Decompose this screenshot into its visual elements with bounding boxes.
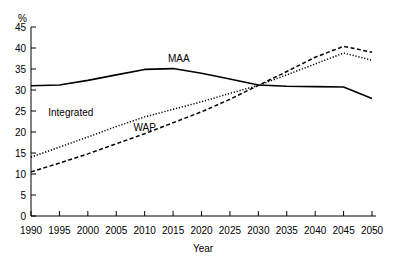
y-tick-label: 35: [15, 64, 27, 75]
y-tick-label: 0: [20, 211, 26, 222]
chart-figure: 051015202530354045 199019952000200520102…: [0, 0, 394, 263]
line-chart-plot: 051015202530354045 199019952000200520102…: [0, 0, 394, 263]
x-tick-label: 2025: [219, 225, 242, 236]
x-tick-label: 2010: [134, 225, 157, 236]
x-tick-label: 1995: [48, 225, 71, 236]
x-tick-label: 2000: [77, 225, 100, 236]
y-axis-unit-label: %: [18, 13, 27, 24]
chart-background: [0, 0, 394, 263]
y-tick-label: 10: [15, 169, 27, 180]
x-tick-label: 2005: [105, 225, 128, 236]
x-tick-label: 2045: [332, 225, 355, 236]
y-tick-label: 5: [20, 190, 26, 201]
x-tick-label: 2050: [361, 225, 384, 236]
x-tick-label: 1990: [20, 225, 43, 236]
y-tick-label: 30: [15, 85, 27, 96]
x-tick-label: 2035: [276, 225, 299, 236]
series-label-maa: MAA: [168, 53, 190, 64]
x-tick-label: 2030: [247, 225, 270, 236]
x-axis-title: Year: [193, 243, 214, 254]
series-label-integrated: Integrated: [48, 107, 93, 118]
y-tick-label: 15: [15, 148, 27, 159]
y-tick-label: 25: [15, 106, 27, 117]
y-tick-label: 40: [15, 43, 27, 54]
y-tick-label: 20: [15, 127, 27, 138]
x-tick-label: 2020: [190, 225, 213, 236]
x-tick-label: 2015: [162, 225, 185, 236]
x-tick-label: 2040: [304, 225, 327, 236]
series-label-wap: WAP: [133, 122, 156, 133]
